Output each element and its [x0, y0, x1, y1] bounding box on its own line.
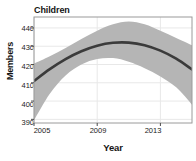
chart-container: Children Members 440 430 420 410 400 390…: [0, 0, 196, 161]
plot-area: [0, 0, 196, 161]
